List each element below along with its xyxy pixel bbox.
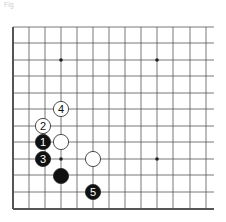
white-stone[interactable] xyxy=(85,151,100,166)
white-stone[interactable] xyxy=(53,134,68,149)
star-point xyxy=(155,157,159,161)
move-number: 4 xyxy=(58,103,64,115)
go-board[interactable]: 42135 xyxy=(0,0,226,222)
move-number: 1 xyxy=(40,136,46,148)
star-point xyxy=(59,58,63,62)
move-number: 3 xyxy=(40,153,46,165)
black-stone[interactable] xyxy=(53,168,68,183)
star-point xyxy=(59,157,63,161)
star-point xyxy=(155,58,159,62)
move-number: 2 xyxy=(40,120,46,132)
move-number: 5 xyxy=(90,186,96,198)
